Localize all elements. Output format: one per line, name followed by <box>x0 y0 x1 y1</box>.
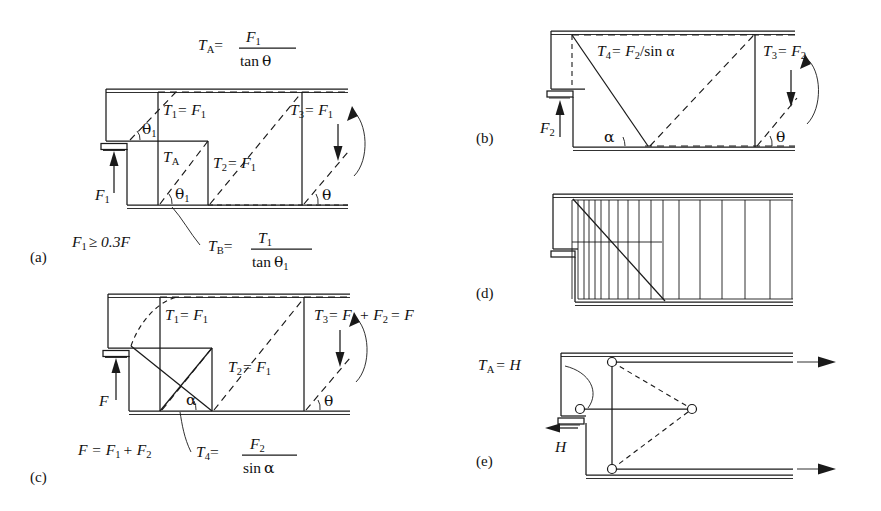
panel-c-moment-arc <box>354 316 367 382</box>
panel-a-arc-theta <box>316 194 318 204</box>
panel-e-pin-left <box>576 405 585 414</box>
panel-a-label-theta1-upper: θ1 <box>142 120 157 139</box>
panel-a-bottom-formula-lhs: TB= <box>208 237 232 256</box>
panel-c-diagonal-t2 <box>214 298 304 410</box>
panel-b: T4= F2/sin α T3= F2 F2 α θ (b) <box>476 31 819 151</box>
panel-e-shoe <box>558 418 584 424</box>
panel-b-label-t3: T3= F2 <box>763 42 806 61</box>
panel-a-label-t2: T2= F1 <box>213 154 256 173</box>
panel-a-bottom-formula-denominator: tanθ1 <box>252 253 289 272</box>
panel-a-label-theta: θ <box>322 186 331 204</box>
panel-d-hatch-lines <box>572 200 792 299</box>
panel-a-force-arrow-head <box>110 151 119 166</box>
figure-canvas: TA= F1 tanθ T1= F1 T2= F1 T3= F1 TA F1 θ… <box>0 0 881 511</box>
panel-a: TA= F1 tanθ T1= F1 T2= F1 T3= F1 TA F1 θ… <box>30 28 365 272</box>
panel-e-reaction-top-head <box>818 357 836 368</box>
panel-e-brace-upper <box>612 362 692 409</box>
panel-e-reaction-bottom-head <box>818 464 836 475</box>
panel-c-label-alpha: α <box>186 391 197 409</box>
panel-a-label-theta1-lower: θ1 <box>175 185 190 204</box>
panel-c-sum-formula: F = F1+ F2 <box>77 441 151 460</box>
panel-c-arc-theta <box>318 400 320 410</box>
panel-b-label-alpha: α <box>604 128 615 146</box>
panel-e-label-ta: TA= H <box>478 356 522 375</box>
panel-a-diagonal-t2 <box>210 92 302 204</box>
panel-a-down-arrow-head <box>334 146 343 161</box>
panel-e-pin-right <box>688 405 697 414</box>
panel-b-moment-arc <box>806 58 819 124</box>
panel-a-top-formula-numerator: F1 <box>245 28 261 47</box>
panel-e-brace-lower <box>612 409 692 469</box>
panel-c-t4-formula-lhs: T4= <box>196 443 219 462</box>
panel-e: TA= H H (e) <box>476 353 836 479</box>
panel-a-label-force: F1 <box>94 186 110 205</box>
panel-a-condition: F1≥ 0.3F <box>71 233 130 252</box>
panel-b-force-arrow-head <box>556 100 565 115</box>
panel-b-label-theta: θ <box>776 128 785 146</box>
panel-c: T1= F1 T2= F1 T3= F1+ F2= F F α θ F = F1… <box>30 294 414 486</box>
panel-a-top-formula-lhs: TA= <box>198 36 223 55</box>
panel-e-force-arrow-head <box>545 424 560 433</box>
panel-e-pin-top <box>608 358 617 367</box>
panel-c-label-force: F <box>98 392 109 409</box>
panel-c-t4-formula-denominator: sinα <box>243 459 275 477</box>
panel-d-shoe <box>551 251 575 257</box>
panel-b-caption: (b) <box>476 130 494 147</box>
panel-c-shoe <box>103 351 129 357</box>
panel-a-bottom-formula-numerator: T1 <box>258 229 272 248</box>
panel-d: (d) <box>476 194 793 306</box>
panel-b-arc-alpha <box>623 137 625 146</box>
panel-a-moment-arrowhead <box>347 106 358 121</box>
panel-b-label-force: F2 <box>539 119 555 138</box>
panel-d-caption: (d) <box>476 285 494 302</box>
panel-e-pin-bottom <box>608 465 617 474</box>
panel-c-label-t2: T2= F1 <box>228 358 271 377</box>
panel-b-arc-theta <box>770 136 772 146</box>
panel-c-force-arrow-head <box>112 358 121 373</box>
panel-c-label-t3: T3= F1+ F2= F <box>314 306 414 325</box>
panel-a-leader-tb <box>172 207 200 245</box>
panel-b-shoe <box>547 91 573 97</box>
panel-b-down-arrow-head <box>787 92 796 107</box>
panel-c-label-theta: θ <box>324 392 333 410</box>
panel-c-label-t1: T1= F1 <box>165 306 208 325</box>
panel-c-t4-formula-numerator: F2 <box>249 435 265 454</box>
panel-a-label-t3: T3= F1 <box>290 101 333 120</box>
panel-b-label-t4: T4= F2/sin α <box>597 42 674 61</box>
panel-a-arc-theta1-lower <box>169 194 172 204</box>
panel-a-label-ta: TA <box>163 148 180 167</box>
panel-c-cross-member-a <box>131 346 212 411</box>
panel-a-arc-theta1-upper <box>137 131 140 140</box>
panel-a-caption: (a) <box>30 249 47 266</box>
panel-e-leader-ta <box>565 366 593 408</box>
panel-c-down-arrow-head <box>336 352 345 367</box>
panel-a-shoe <box>101 144 127 150</box>
panel-e-caption: (e) <box>476 453 493 470</box>
panel-c-caption: (c) <box>30 469 47 486</box>
panel-e-label-force: H <box>554 438 567 455</box>
panel-c-leader-t4 <box>180 412 191 452</box>
panel-a-top-formula-denominator: tanθ <box>240 52 271 70</box>
panel-a-label-t1: T1= F1 <box>163 101 206 120</box>
diagram-svg: TA= F1 tanθ T1= F1 T2= F1 T3= F1 TA F1 θ… <box>0 0 881 511</box>
panel-a-moment-arc <box>352 110 365 176</box>
